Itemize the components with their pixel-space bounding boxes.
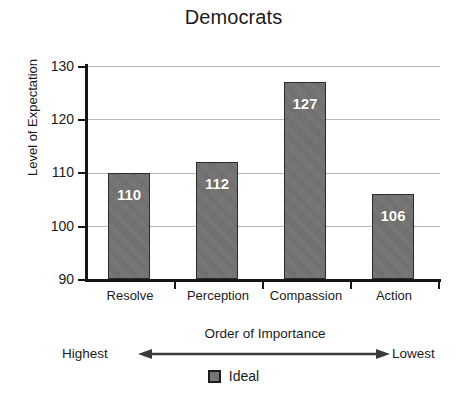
bar-action[interactable]: 106 (372, 194, 414, 279)
legend-label-ideal: Ideal (229, 368, 259, 384)
y-tick-mark-100 (78, 226, 86, 228)
y-tick-label-90: 90 (40, 272, 74, 286)
x-tick-label-perception: Perception (174, 288, 262, 303)
y-tick-mark-120 (78, 119, 86, 121)
y-tick-label-130: 130 (40, 59, 74, 73)
y-tick-label-120: 120 (40, 112, 74, 126)
x-tick-mark-4 (438, 281, 440, 289)
chart-title: Democrats (0, 6, 467, 29)
y-tick-mark-110 (78, 172, 86, 174)
x-axis-title: Order of Importance (110, 326, 420, 341)
bar-value-action: 106 (373, 207, 413, 224)
bar-compassion[interactable]: 127 (284, 82, 326, 279)
x-tick-label-resolve: Resolve (86, 288, 174, 303)
chart-legend: Ideal (0, 368, 467, 384)
y-tick-mark-90 (78, 279, 86, 281)
y-tick-mark-130 (78, 66, 86, 68)
x-tick-label-action: Action (350, 288, 438, 303)
bar-resolve[interactable]: 110 (108, 173, 150, 279)
legend-swatch-ideal (208, 370, 221, 383)
direction-label-lowest: Lowest (392, 346, 435, 361)
direction-arrow-icon (138, 345, 390, 363)
bar-value-perception: 112 (197, 175, 237, 192)
y-axis-title: Level of Expectation (25, 23, 40, 213)
gridline-120 (87, 119, 440, 120)
gridline-130 (87, 66, 440, 67)
y-tick-label-100: 100 (40, 219, 74, 233)
bar-perception[interactable]: 112 (196, 162, 238, 279)
direction-label-highest: Highest (62, 346, 108, 361)
bar-chart: Democrats Level of Expectation 130 120 1… (0, 0, 467, 414)
bar-value-resolve: 110 (109, 186, 149, 203)
x-tick-label-compassion: Compassion (262, 288, 350, 303)
y-tick-label-110: 110 (40, 165, 74, 179)
bar-value-compassion: 127 (285, 95, 325, 112)
